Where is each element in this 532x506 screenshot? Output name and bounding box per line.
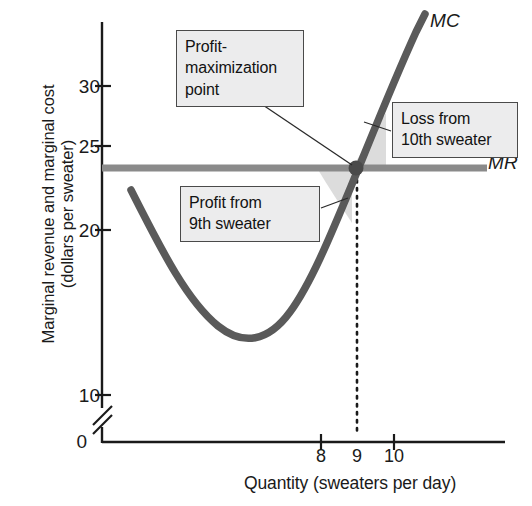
callout-profit-line-2: 9th sweater (189, 213, 311, 234)
callout-profit-maximization-point: Profit- maximization point (176, 30, 304, 107)
profit-maximization-point-marker (349, 161, 364, 176)
y-axis-break-mark-1 (93, 406, 112, 425)
callout-profit-from-9th-sweater: Profit from 9th sweater (180, 186, 320, 242)
callout-loss-line-2: 10th sweater (401, 129, 509, 150)
callout-profit-max-line-3: point (185, 79, 295, 100)
callout-loss-from-10th-sweater: Loss from 10th sweater (392, 102, 518, 158)
callout-profit-max-line-2: maximization (185, 57, 295, 78)
marginal-cost-revenue-chart: Marginal revenue and marginal cost (doll… (0, 0, 532, 506)
callout-loss-line-1: Loss from (401, 108, 509, 129)
callout-profit-max-line-1: Profit- (185, 36, 295, 57)
callout-profit-line-1: Profit from (189, 192, 311, 213)
